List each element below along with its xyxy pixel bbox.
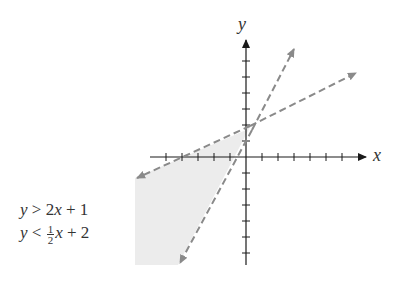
fraction-denominator: 2 [47,235,55,245]
ineq2-fraction: 12 [47,224,55,245]
ineq2-op: < [32,223,42,242]
ineq1-op: > [32,200,42,219]
inequality-1: y > 2x + 1 [20,200,88,220]
ineq2-var: x [55,223,63,242]
boundary-line-y-half-x-plus-2 [250,73,356,126]
ineq1-const: + 1 [66,200,88,219]
ineq1-lhs: y [20,200,28,219]
fraction-numerator: 1 [47,224,55,235]
boundary-line-y-2x-plus-1 [252,49,294,130]
ineq1-var: x [54,200,62,219]
ineq1-coef: 2 [46,200,55,219]
y-axis-label: y [238,14,246,35]
inequality-2: y < 12x + 2 [20,223,89,245]
ineq2-lhs: y [20,223,28,242]
solution-region [135,125,251,265]
x-axis-label: x [373,145,381,166]
ineq2-const: + 2 [67,223,89,242]
